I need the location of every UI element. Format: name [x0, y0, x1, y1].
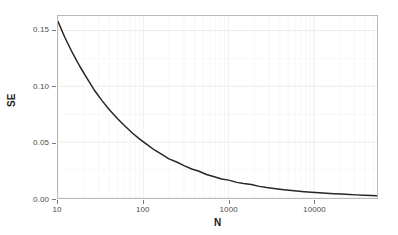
y-tick-mark [52, 86, 56, 87]
y-tick-label: 0.05 [33, 138, 49, 147]
x-axis-title: N [57, 217, 378, 228]
x-tick-label: 10000 [303, 205, 326, 214]
se-curve-line [58, 16, 377, 198]
x-tick-mark [314, 200, 315, 204]
y-tick-mark [52, 143, 56, 144]
x-tick-mark [57, 200, 58, 204]
y-axis-tick-labels: 0.000.050.100.15 [0, 0, 49, 235]
y-tick-label: 0.15 [33, 25, 49, 34]
y-axis-title: SE [6, 94, 17, 107]
x-tick-label: 100 [136, 205, 150, 214]
x-tick-mark [143, 200, 144, 204]
x-tick-mark [229, 200, 230, 204]
x-tick-label: 1000 [220, 205, 238, 214]
x-tick-label: 10 [52, 205, 61, 214]
plot-panel [57, 15, 378, 199]
y-tick-mark [52, 199, 56, 200]
y-tick-label: 0.10 [33, 82, 49, 91]
chart-figure: 0.000.050.100.15 SE 10100100010000 N [0, 0, 398, 235]
y-tick-mark [52, 30, 56, 31]
y-tick-label: 0.00 [33, 195, 49, 204]
